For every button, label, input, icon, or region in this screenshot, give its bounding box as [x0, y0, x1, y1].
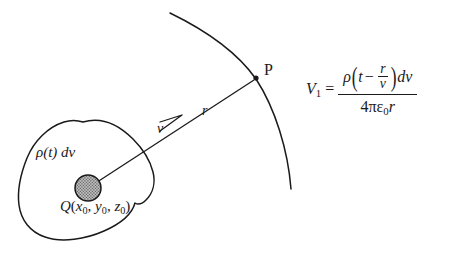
source-coord-x: x [76, 198, 83, 214]
velocity-label: v [157, 122, 163, 136]
numerator-close-paren: ) [391, 67, 397, 87]
potential-symbol: V [306, 80, 316, 97]
source-coord-separator-1: , [88, 198, 96, 214]
numerator-volume-element: dv [397, 68, 412, 86]
numerator-time: t [358, 68, 362, 86]
denominator-pi: π [369, 98, 377, 115]
denominator-r: r [389, 98, 395, 115]
distance-label: r [202, 104, 207, 118]
source-point-close-paren: ) [125, 198, 130, 214]
source-point-symbol: Q [60, 198, 71, 214]
source-point-label: Q(x0, y0, z0) [60, 199, 130, 216]
numerator-minus: − [365, 68, 374, 86]
equals-sign: = [325, 80, 334, 98]
figure-root: ρ(t) dv Q(x0, y0, z0) v r P V1 = ρ ( t −… [0, 0, 473, 254]
wavefront-arc [170, 13, 291, 189]
potential-subscript: 1 [316, 87, 321, 99]
retardation-fraction: r v [378, 62, 388, 92]
equation-numerator: ρ ( t − r v ) dv [338, 62, 417, 94]
source-coord-y: y [95, 198, 102, 214]
numerator-open-paren: ( [352, 67, 358, 87]
denominator-four: 4 [361, 98, 369, 115]
retardation-denominator: v [378, 77, 388, 91]
retarded-potential-equation: V1 = ρ ( t − r v ) dv 4πε0r [306, 62, 417, 117]
radius-vector-line [88, 80, 254, 188]
field-point-label: P [264, 62, 273, 78]
field-point-marker [253, 75, 258, 80]
equation-lhs: V1 [306, 80, 321, 99]
numerator-rho: ρ [343, 68, 351, 86]
charge-density-label: ρ(t) dv [36, 145, 75, 160]
retardation-numerator: r [378, 62, 387, 76]
equation-denominator: 4πε0r [356, 95, 400, 117]
main-fraction: ρ ( t − r v ) dv 4πε0r [338, 62, 417, 117]
